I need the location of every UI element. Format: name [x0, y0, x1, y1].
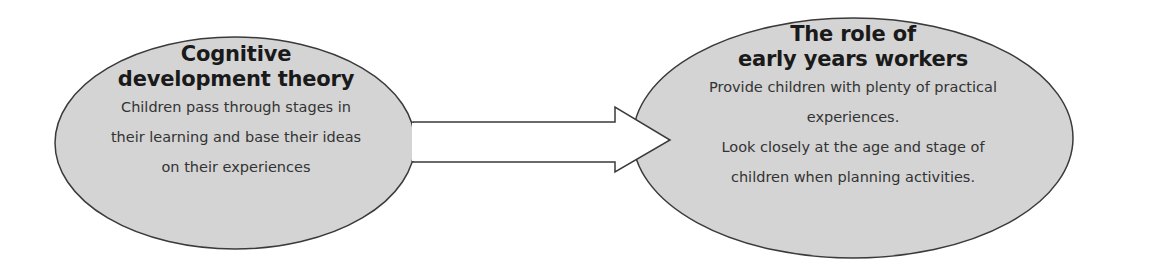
node-body: Children pass through stages in their le…: [111, 92, 361, 182]
node-title-line: early years workers: [738, 47, 968, 72]
node-body-line: Look closely at the age and stage of: [709, 132, 997, 162]
node-body-line: Children pass through stages in: [111, 92, 361, 122]
node-title-line: Cognitive: [118, 42, 354, 67]
node-body-line: their learning and base their ideas: [111, 122, 361, 152]
node-title: Cognitive development theory: [118, 42, 354, 92]
node-cognitive-development-theory: Cognitive development theory Children pa…: [56, 42, 416, 182]
node-body-line: on their experiences: [111, 152, 361, 182]
node-title: The role of early years workers: [738, 22, 968, 72]
node-role-of-early-years-workers: The role of early years workers Provide …: [633, 22, 1073, 192]
node-title-line: development theory: [118, 67, 354, 92]
node-body: Provide children with plenty of practica…: [709, 72, 997, 192]
arrow-connector: [413, 107, 670, 172]
node-title-line: The role of: [738, 22, 968, 47]
node-body-line: experiences.: [709, 102, 997, 132]
node-body-line: children when planning activities.: [709, 162, 997, 192]
node-body-line: Provide children with plenty of practica…: [709, 72, 997, 102]
